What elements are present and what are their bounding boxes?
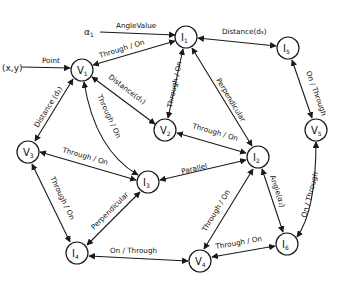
svg-text:Through / On: Through / On [165,61,184,110]
edge-i1-v2: Through / On [165,49,184,118]
svg-text:Parallel: Parallel [180,161,208,176]
constraint-graph: AngleValue Point Through / On Distance(d… [0,0,347,289]
alpha1-label: α1 [84,27,94,38]
edge-i2-i6: Angle(α₂) [262,169,287,232]
edge-v1-v3: Distance (d₂) [32,79,73,141]
edge-v5-i6: On / Through [297,142,320,237]
node-v4: V4 [189,250,211,272]
svg-text:α1: α1 [84,27,94,38]
node-i4: I4 [66,242,88,264]
edge-point: Point [22,56,70,68]
edge-v2-i2: Through / On [177,121,246,153]
svg-text:Perpendicular: Perpendicular [214,76,247,123]
edge-anglevalue: AngleValue [100,21,175,35]
node-v1: V1 [71,59,93,81]
node-v2: V2 [154,119,176,141]
node-v5: V5 [305,119,327,141]
svg-text:Through / On: Through / On [190,121,239,143]
node-i1: I1 [175,26,197,48]
edge-v3-i4: Through / On [32,164,77,242]
edge-i3-i2: Parallel [160,160,246,180]
node-i5: I5 [277,37,299,59]
xy-label: (x,y) [2,63,23,73]
svg-text:Point: Point [42,56,60,65]
svg-text:Through / On: Through / On [60,145,109,167]
edge-v4-i6: Through / On [212,234,275,257]
svg-text:Distance(d₃): Distance(d₃) [222,27,267,36]
edge-i3-i4: Perpendicular [87,190,140,245]
svg-text:On / Through: On / Through [299,171,320,219]
svg-text:Through / On: Through / On [48,174,77,221]
edge-i5-v5: On / Through [292,60,329,118]
svg-text:On / Through: On / Through [110,246,157,255]
node-v3: V3 [17,141,39,163]
svg-text:Perpendicular: Perpendicular [89,190,130,231]
svg-text:Distance (d₂): Distance (d₂) [32,84,65,129]
edge-i4-v4: On / Through [89,246,188,261]
svg-text:Through / On: Through / On [214,234,263,251]
svg-text:On / Through: On / Through [304,70,329,117]
edge-v1-i1: Through / On [93,38,175,65]
node-i6: I6 [276,233,298,255]
edge-i1-i5: Distance(d₃) [198,27,276,46]
node-i3: I3 [137,171,159,193]
svg-text:Angle(α₂): Angle(α₂) [268,174,287,209]
svg-text:Distance(d₁): Distance(d₁) [107,72,148,106]
node-i2: I2 [247,146,269,168]
svg-text:AngleValue: AngleValue [116,21,157,30]
